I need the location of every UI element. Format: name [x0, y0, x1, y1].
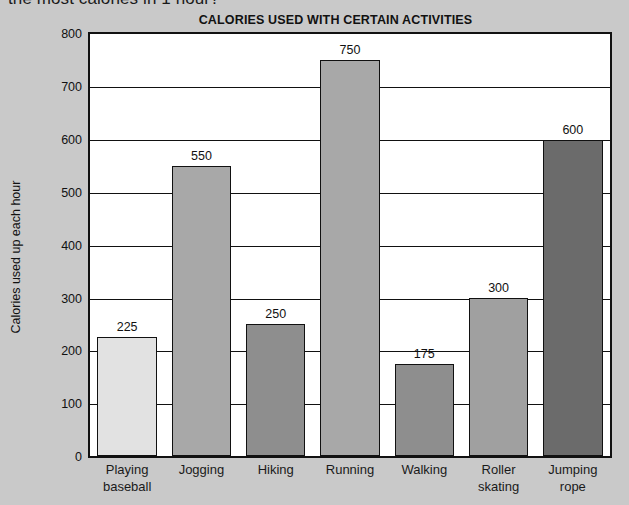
bar-value-label: 550: [191, 149, 212, 163]
category-label-line: Jogging: [164, 461, 238, 478]
category-label: Walking: [387, 461, 461, 478]
y-tick-400: 400: [22, 239, 82, 253]
category-label-line: Roller: [461, 461, 535, 478]
category-label: Jumpingrope: [536, 461, 610, 495]
y-tick-200: 200: [22, 344, 82, 358]
category-label-line: Running: [313, 461, 387, 478]
category-label-line: skating: [461, 478, 535, 495]
y-axis-title: Calories used up each hour: [9, 157, 23, 357]
chart-title: CALORIES USED WITH CERTAIN ACTIVITIES: [0, 13, 629, 27]
bar-value-label: 600: [562, 123, 583, 137]
category-label: Rollerskating: [461, 461, 535, 495]
bar-hiking: [246, 324, 305, 456]
bar-value-label: 175: [414, 347, 435, 361]
bars-container: 225550250750175300600: [90, 34, 610, 456]
category-label-line: baseball: [90, 478, 164, 495]
x-axis-category-labels: PlayingbaseballJoggingHikingRunningWalki…: [90, 461, 610, 505]
bar-jumping-rope: [543, 140, 602, 457]
y-tick-100: 100: [22, 397, 82, 411]
y-tick-800: 800: [22, 27, 82, 41]
bar-value-label: 750: [340, 43, 361, 57]
category-label: Jogging: [164, 461, 238, 478]
bar-value-label: 300: [488, 281, 509, 295]
category-label-line: Hiking: [239, 461, 313, 478]
bar-value-label: 250: [265, 307, 286, 321]
y-tick-300: 300: [22, 292, 82, 306]
bar-walking: [395, 364, 454, 456]
bar-roller-skating: [469, 298, 528, 456]
category-label: Running: [313, 461, 387, 478]
category-label-line: Walking: [387, 461, 461, 478]
y-tick-500: 500: [22, 186, 82, 200]
category-label-line: Playing: [90, 461, 164, 478]
y-tick-600: 600: [22, 133, 82, 147]
category-label-line: rope: [536, 478, 610, 495]
bar-jogging: [172, 166, 231, 456]
category-label-line: Jumping: [536, 461, 610, 478]
category-label: Playingbaseball: [90, 461, 164, 495]
clipped-question-text: the most calories in 1 hour?: [8, 0, 220, 9]
bar-value-label: 225: [117, 320, 138, 334]
y-tick-0: 0: [22, 450, 82, 464]
category-label: Hiking: [239, 461, 313, 478]
bar-running: [320, 60, 379, 456]
bar-playing-baseball: [97, 337, 156, 456]
y-tick-700: 700: [22, 80, 82, 94]
